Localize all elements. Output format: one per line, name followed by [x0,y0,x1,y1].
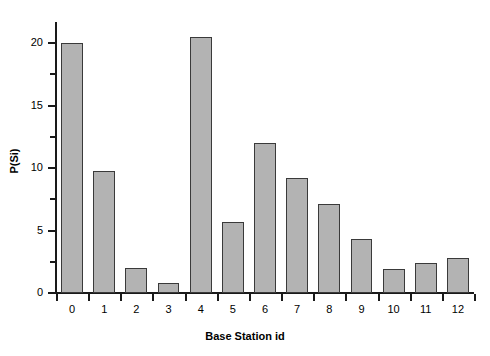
x-tick-label: 10 [379,303,409,315]
bar [158,283,180,293]
x-tick-label: 8 [314,303,344,315]
y-axis-title: P(Si) [8,111,20,211]
y-tick-major [48,292,55,294]
x-tick-label: 1 [89,303,119,315]
x-tick [120,294,122,301]
y-tick-minor [50,261,55,263]
bar [447,258,469,293]
x-tick [185,294,187,301]
y-tick-major [48,230,55,232]
x-tick-label: 9 [346,303,376,315]
y-tick-label: 20 [3,37,43,48]
y-tick-label: 0 [3,287,43,298]
y-tick-label: 15 [3,100,43,111]
x-tick-label: 0 [57,303,87,315]
y-tick-minor [50,73,55,75]
y-tick-label: 10 [3,162,43,173]
y-tick-minor [50,198,55,200]
y-tick-major [48,167,55,169]
bar [383,269,405,293]
bar [93,171,115,294]
x-tick-label: 6 [250,303,280,315]
x-tick-label: 11 [411,303,441,315]
x-tick [152,294,154,301]
x-tick-label: 2 [121,303,151,315]
bar [222,222,244,293]
bar [61,43,83,293]
bar [318,204,340,293]
bar-chart-figure: P(Si) 05101520 0123456789101112 Base Sta… [0,0,490,356]
y-tick-major [48,105,55,107]
x-tick [378,294,380,301]
bar [125,268,147,293]
x-tick [345,294,347,301]
bar [415,263,437,293]
x-tick [313,294,315,301]
x-axis-title: Base Station id [0,330,490,342]
x-tick [88,294,90,301]
x-tick [410,294,412,301]
x-tick-label: 3 [154,303,184,315]
x-tick [442,294,444,301]
y-tick-label: 5 [3,225,43,236]
bar [286,178,308,293]
x-tick [56,294,58,301]
x-tick-label: 5 [218,303,248,315]
bar [254,143,276,293]
x-tick [474,294,476,301]
x-tick [217,294,219,301]
x-tick-label: 4 [186,303,216,315]
plot-area [56,18,474,293]
x-tick [249,294,251,301]
y-tick-minor [50,136,55,138]
y-tick-major [48,42,55,44]
bar [190,37,212,293]
bar [351,239,373,293]
x-tick [281,294,283,301]
x-tick-label: 12 [443,303,473,315]
x-tick-label: 7 [282,303,312,315]
